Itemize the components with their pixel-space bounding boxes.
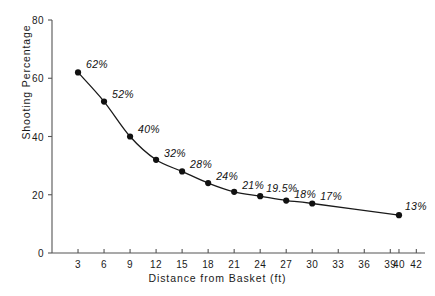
data-point-label: 52% <box>112 88 134 100</box>
x-axis-tick-label: 3 <box>75 259 81 270</box>
x-axis-tick-label: 21 <box>228 259 240 270</box>
data-point-label: 17% <box>320 190 342 202</box>
data-point <box>283 197 289 203</box>
x-axis-tick-label: 18 <box>202 259 214 270</box>
x-axis-tick-label: 9 <box>127 259 133 270</box>
data-point <box>75 69 81 75</box>
data-point <box>179 168 185 174</box>
x-axis-tick-label: 24 <box>254 259 266 270</box>
x-axis-tick-label: 6 <box>101 259 107 270</box>
data-point-label: 62% <box>86 58 108 70</box>
data-point-label: 18% <box>294 188 316 200</box>
data-point <box>231 189 237 195</box>
data-point-label: 21% <box>242 179 264 191</box>
x-axis-tick-label: 27 <box>280 259 292 270</box>
x-axis-ticks <box>78 249 416 253</box>
data-point <box>205 180 211 186</box>
data-point <box>153 157 159 163</box>
data-point <box>257 193 263 199</box>
x-axis-title: Distance from Basket (ft) <box>0 272 435 284</box>
x-axis-tick-label: 33 <box>332 259 344 270</box>
chart-plot-area <box>0 0 435 296</box>
data-point <box>309 200 315 206</box>
y-axis-ticks <box>48 20 52 253</box>
data-point-label: 19.5% <box>266 182 297 194</box>
x-axis-tick-label: 40 <box>393 259 405 270</box>
x-axis-tick-label: 15 <box>176 259 188 270</box>
data-point-label: 24% <box>216 170 238 182</box>
x-axis-tick-label: 30 <box>306 259 318 270</box>
axis-lines <box>52 20 425 253</box>
x-axis-tick-label: 36 <box>358 259 370 270</box>
data-point-label: 32% <box>164 147 186 159</box>
data-point <box>101 98 107 104</box>
data-point-label: 28% <box>190 158 212 170</box>
data-point <box>396 212 402 218</box>
data-point <box>127 133 133 139</box>
x-axis-tick-label: 42 <box>410 259 422 270</box>
chart-figure: 020406080369121518212427303336394042 62%… <box>0 0 435 296</box>
y-axis-title: Shooting Percentage <box>20 2 32 162</box>
data-point-label: 13% <box>405 200 427 212</box>
y-axis-tick-label: 20 <box>14 189 44 200</box>
data-point-label: 40% <box>138 123 160 135</box>
x-axis-tick-label: 12 <box>150 259 162 270</box>
y-axis-tick-label: 0 <box>14 248 44 259</box>
